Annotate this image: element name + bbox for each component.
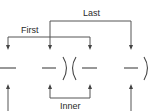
arrow-down-icon — [48, 45, 52, 50]
arrow-up-icon — [129, 84, 133, 89]
foil-diagram-lines — [0, 0, 159, 111]
inner-label: Inner — [60, 101, 81, 111]
arrow-up-icon — [88, 84, 92, 89]
arrow-down-icon — [6, 45, 10, 50]
arrow-up-icon — [48, 84, 52, 89]
open-paren-2 — [73, 57, 77, 80]
inner-bracket — [48, 84, 92, 98]
close-paren-2 — [144, 57, 148, 80]
last-label: Last — [83, 8, 100, 18]
first-bracket — [6, 37, 92, 50]
close-paren-1 — [63, 57, 67, 80]
arrow-up-icon — [6, 84, 10, 89]
first-label: First — [21, 25, 39, 35]
foil-diagram: Last First Inner — [0, 0, 159, 111]
arrow-down-icon — [129, 45, 133, 50]
arrow-down-icon — [88, 45, 92, 50]
